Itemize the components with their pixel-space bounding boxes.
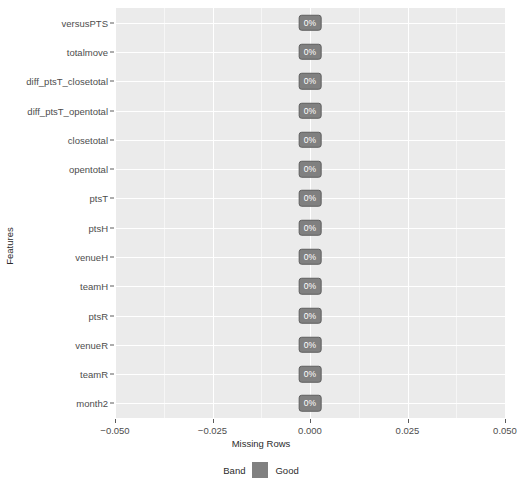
- y-tick-mark: [110, 198, 114, 199]
- y-tick-mark: [110, 51, 114, 52]
- y-tick-mark: [110, 286, 114, 287]
- x-tick-mark: [213, 419, 214, 423]
- y-axis-title: Features: [4, 227, 15, 265]
- y-tick-mark: [110, 22, 114, 23]
- x-tick-mark: [505, 419, 506, 423]
- data-point-label: 0%: [299, 102, 322, 119]
- legend-label-good: Good: [275, 465, 298, 476]
- y-tick-mark: [110, 110, 114, 111]
- y-tick-mark: [110, 256, 114, 257]
- data-point-label: 0%: [299, 44, 322, 61]
- data-point-label: 0%: [299, 337, 322, 354]
- x-tick-label: −0.050: [100, 425, 129, 436]
- data-point-label: 0%: [299, 73, 322, 90]
- y-tick-label: teamH: [80, 281, 108, 292]
- y-tick-label: totalmove: [67, 46, 108, 57]
- gridline-vertical-minor: [359, 8, 360, 418]
- y-tick-mark: [110, 81, 114, 82]
- data-point-label: 0%: [299, 366, 322, 383]
- y-tick-label: closetotal: [68, 134, 108, 145]
- x-tick-label: 0.000: [298, 425, 322, 436]
- x-tick-mark: [310, 419, 311, 423]
- gridline-vertical: [115, 8, 116, 418]
- y-tick-mark: [110, 403, 114, 404]
- y-tick-mark: [110, 139, 114, 140]
- data-point-label: 0%: [299, 161, 322, 178]
- x-tick-mark: [115, 419, 116, 423]
- y-tick-mark: [110, 374, 114, 375]
- x-tick-label: 0.025: [396, 425, 420, 436]
- y-tick-label: venueH: [75, 251, 108, 262]
- data-point-label: 0%: [299, 249, 322, 266]
- y-tick-label: teamR: [80, 369, 108, 380]
- data-point-label: 0%: [299, 307, 322, 324]
- legend-title: Band: [223, 465, 245, 476]
- data-point-label: 0%: [299, 132, 322, 149]
- gridline-vertical-minor: [456, 8, 457, 418]
- y-tick-label: opentotal: [69, 164, 108, 175]
- gridline-vertical: [505, 8, 506, 418]
- y-tick-label: venueR: [75, 339, 108, 350]
- y-tick-mark: [110, 227, 114, 228]
- x-tick-mark: [408, 419, 409, 423]
- y-tick-label: diff_ptsT_opentotal: [27, 105, 108, 116]
- data-point-label: 0%: [299, 190, 322, 207]
- y-tick-mark: [110, 344, 114, 345]
- data-point-label: 0%: [299, 14, 322, 31]
- y-tick-label: ptsT: [90, 193, 108, 204]
- missing-rows-chart: Features versusPTStotalmovediff_ptsT_clo…: [0, 0, 522, 491]
- gridline-vertical: [408, 8, 409, 418]
- x-tick-label: 0.050: [493, 425, 517, 436]
- legend-key-good[interactable]: [252, 462, 268, 478]
- data-point-label: 0%: [299, 395, 322, 412]
- gridline-vertical-minor: [261, 8, 262, 418]
- data-point-label: 0%: [299, 219, 322, 236]
- legend: Band Good: [0, 462, 522, 478]
- y-tick-label: diff_ptsT_closetotal: [26, 76, 108, 87]
- y-tick-label: versusPTS: [62, 17, 108, 28]
- plot-panel: [115, 8, 505, 418]
- gridline-vertical: [213, 8, 214, 418]
- y-tick-mark: [110, 315, 114, 316]
- y-tick-label: ptsH: [88, 222, 108, 233]
- gridline-vertical-minor: [164, 8, 165, 418]
- y-tick-mark: [110, 169, 114, 170]
- data-point-label: 0%: [299, 278, 322, 295]
- y-tick-label: month2: [76, 398, 108, 409]
- x-axis-title: Missing Rows: [0, 438, 522, 449]
- gridline-vertical: [310, 8, 311, 418]
- y-tick-label: ptsR: [88, 310, 108, 321]
- x-tick-label: −0.025: [198, 425, 227, 436]
